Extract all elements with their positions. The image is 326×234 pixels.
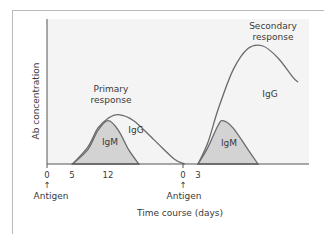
tick-label-3: 3: [195, 170, 200, 180]
tick-label-0-primary: 0: [44, 170, 49, 180]
antigen-arrow-icon: ↑: [43, 180, 50, 190]
primary-response-label-line1: Primary: [94, 84, 129, 94]
antibody-response-chart: Ab concentration Primary response Second…: [0, 0, 326, 234]
x-axis-label: Time course (days): [136, 208, 223, 218]
igm-secondary-label: IgM: [221, 138, 237, 148]
primary-response-label-line2: response: [91, 95, 132, 105]
y-axis-label: Ab concentration: [31, 62, 41, 139]
tick-label-5: 5: [69, 170, 74, 180]
igg-secondary-label: IgG: [262, 89, 277, 99]
secondary-response-label-line2: response: [253, 32, 294, 42]
tick-label-0-secondary: 0: [180, 170, 185, 180]
antigen-label-secondary: Antigen: [167, 191, 202, 201]
igm-primary-label: IgM: [102, 137, 118, 147]
igg-primary-label: IgG: [128, 125, 143, 135]
antigen-label-primary: Antigen: [34, 191, 69, 201]
tick-label-12: 12: [103, 170, 114, 180]
secondary-response-label-line1: Secondary: [249, 21, 297, 31]
antigen-arrow-icon: ↑: [179, 180, 186, 190]
